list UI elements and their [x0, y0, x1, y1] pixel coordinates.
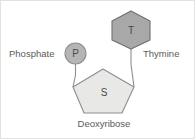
base-glyph: T [128, 25, 134, 36]
connector-base-to-sugar [131, 49, 134, 87]
phosphate-glyph: P [72, 48, 79, 59]
thymine-label: Thymine [143, 48, 179, 59]
deoxyribose-label: Deoxyribose [78, 118, 131, 129]
nucleotide-diagram: P S T Phosphate Thymine Deoxyribose [0, 0, 195, 139]
phosphate-label: Phosphate [9, 48, 54, 59]
diagram-canvas: P S T Phosphate Thymine Deoxyribose [1, 1, 195, 139]
connector-phosphate-to-sugar [73, 64, 76, 87]
sugar-glyph: S [101, 87, 108, 98]
